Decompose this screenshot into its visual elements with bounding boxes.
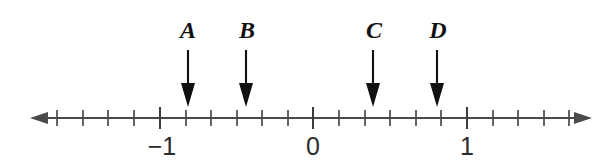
pointer-d-label: D <box>428 17 446 43</box>
axis-label-neg-one: −1 <box>148 132 177 160</box>
pointer-a-arrow-icon <box>181 83 195 107</box>
pointer-c-label: C <box>366 17 383 43</box>
number-line-figure: −1 0 1 A B C D <box>0 0 610 161</box>
pointer-d-arrow-icon <box>430 83 444 107</box>
number-line-canvas: −1 0 1 A B C D <box>0 0 610 161</box>
axis-left-arrow-icon <box>30 112 48 124</box>
pointer-b-label: B <box>238 17 255 43</box>
pointer-a: A <box>178 17 196 107</box>
pointer-c-arrow-icon <box>366 83 380 107</box>
pointer-b-arrow-icon <box>239 83 253 107</box>
pointer-c: C <box>366 17 383 107</box>
axis-label-zero: 0 <box>306 132 320 160</box>
pointer-d: D <box>428 17 446 107</box>
pointer-a-label: A <box>178 17 196 43</box>
axis-label-one: 1 <box>460 132 474 160</box>
axis-right-arrow-icon <box>574 112 592 124</box>
pointer-b: B <box>238 17 255 107</box>
